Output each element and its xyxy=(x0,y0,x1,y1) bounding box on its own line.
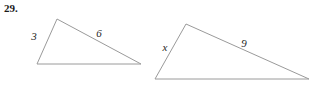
small-triangle xyxy=(37,19,141,64)
side-label-6: 6 xyxy=(96,27,102,39)
triangles-diagram xyxy=(0,0,312,91)
side-label-3: 3 xyxy=(31,30,37,42)
large-triangle xyxy=(155,24,309,79)
side-label-9: 9 xyxy=(241,37,247,49)
side-label-x: x xyxy=(163,41,168,53)
figure-container: 29. 36x9 xyxy=(0,0,312,91)
